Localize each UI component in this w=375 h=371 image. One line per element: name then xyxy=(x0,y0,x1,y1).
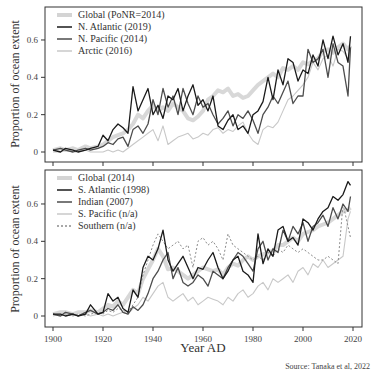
x-tick-label: 2000 xyxy=(294,334,313,344)
top-y-axis: 00.20.40.6 xyxy=(27,35,45,157)
legend-label: N. Pacific (2014) xyxy=(78,33,147,45)
y-tick-label: 0 xyxy=(34,311,39,321)
y-tick-label: 0.6 xyxy=(27,35,39,45)
x-tick-label: 1980 xyxy=(244,334,263,344)
x-tick-label: 1940 xyxy=(144,334,163,344)
chart-canvas: 00.20.40.6 00.20.40.6 190019201940196019… xyxy=(0,0,375,371)
bottom-y-axis: 00.20.40.6 xyxy=(27,199,45,321)
x-tick-label: 1920 xyxy=(94,334,113,344)
source-note: Source: Tanaka et al, 2022 xyxy=(285,362,370,371)
y-tick-label: 0.4 xyxy=(27,236,39,246)
y-tick-label: 0.4 xyxy=(27,72,39,82)
x-axis-title: Year AD xyxy=(180,340,225,355)
top-y-axis-title: Proportion of ocean extent xyxy=(8,20,22,148)
x-tick-label: 2020 xyxy=(344,334,363,344)
y-tick-label: 0.2 xyxy=(27,110,38,120)
legend-label: S. Atlantic (1998) xyxy=(78,184,149,196)
series-line-n-pacific-2014 xyxy=(53,44,351,152)
y-tick-label: 0.6 xyxy=(27,199,39,209)
legend-label: Global (2014) xyxy=(78,172,134,184)
y-tick-label: 0.2 xyxy=(27,274,38,284)
legend-label: N. Atlantic (2019) xyxy=(78,21,151,33)
bottom-y-axis-title: Proportion of ocean extent xyxy=(8,185,22,313)
legend-label: Global (PoNR=2014) xyxy=(78,9,164,21)
x-tick-label: 1900 xyxy=(44,334,63,344)
legend-label: Arctic (2016) xyxy=(78,45,132,57)
top-x-ticks xyxy=(53,162,353,166)
y-tick-label: 0 xyxy=(34,147,39,157)
bottom-legend: Global (2014)S. Atlantic (1998)Indian (2… xyxy=(57,172,149,232)
legend-label: Indian (2007) xyxy=(78,196,133,208)
top-legend: Global (PoNR=2014)N. Atlantic (2019)N. P… xyxy=(57,9,164,57)
legend-label: S. Pacific (n/a) xyxy=(78,208,138,220)
legend-label: Southern (n/a) xyxy=(78,220,136,232)
